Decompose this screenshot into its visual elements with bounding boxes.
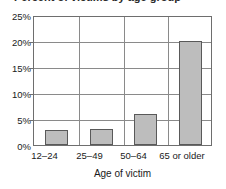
x-tick-label-65-or-older: 65 or older — [152, 150, 212, 161]
bar-12-24 — [45, 130, 68, 145]
x-axis-title: Age of victim — [33, 168, 212, 179]
category-divider-2 — [124, 17, 125, 145]
category-divider-3 — [168, 17, 169, 145]
x-tick-label-12-24: 12–24 — [22, 150, 67, 161]
category-divider-1 — [79, 17, 80, 145]
bar-50-64 — [134, 114, 157, 145]
x-tick-label-25-49: 25–49 — [67, 150, 112, 161]
y-tick-label-20: 20% — [5, 38, 31, 48]
y-tick-label-25: 25% — [5, 12, 31, 22]
bar-65-or-older — [179, 41, 202, 145]
x-tick-label-50-64: 50–64 — [111, 150, 156, 161]
y-tick-label-10: 10% — [5, 90, 31, 100]
plot-area — [33, 16, 212, 146]
bar-chart: 25% 20% 15% 10% 5% 0% 12–24 25–49 50–64 … — [0, 0, 226, 189]
y-tick-label-5: 5% — [5, 116, 31, 126]
y-tick-label-15: 15% — [5, 64, 31, 74]
bar-25-49 — [90, 129, 113, 145]
